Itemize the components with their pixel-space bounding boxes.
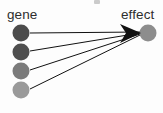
effect-column-label: effect [121,8,154,22]
node-gene-1[interactable] [13,25,30,42]
edge-gene-4-to-effect-1 [30,35,140,89]
node-effect-1[interactable] [140,25,157,42]
node-gene-2[interactable] [13,44,30,61]
edge-gene-2-to-effect-1 [30,33,140,51]
node-gene-4[interactable] [13,82,30,99]
edge-gene-1-to-effect-1 [30,32,140,33]
scan-artifact [94,0,100,4]
diagram-canvas: gene effect [0,0,163,113]
node-gene-3[interactable] [13,63,30,80]
gene-column-label: gene [7,8,37,22]
